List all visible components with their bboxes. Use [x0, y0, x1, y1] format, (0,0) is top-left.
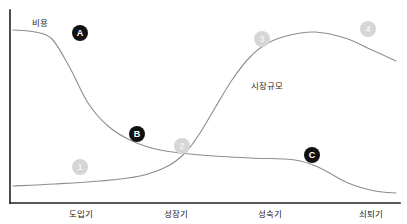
chart-canvas: [0, 0, 407, 224]
badge-3: 3: [254, 31, 270, 47]
badge-4: 4: [360, 21, 376, 37]
x-tick-label-introduction: 도입기: [51, 210, 111, 219]
cost-curve: [13, 30, 396, 193]
badge-a: A: [72, 25, 88, 41]
x-tick-label-maturity: 성숙기: [240, 210, 300, 219]
badge-2: 2: [174, 138, 190, 154]
cost-series-label: 비용: [32, 19, 48, 28]
product-life-cycle-chart: 비용시장규모 도입기성장기성숙기쇠퇴기 ABC1234: [0, 0, 407, 224]
x-tick-label-growth: 성장기: [146, 210, 206, 219]
market-size-curve: [13, 32, 396, 186]
x-tick-label-decline: 쇠퇴기: [341, 210, 401, 219]
badge-b: B: [129, 126, 145, 142]
market-size-series-label: 시장규모: [251, 82, 283, 91]
badge-c: C: [304, 147, 320, 163]
badge-1: 1: [72, 159, 88, 175]
